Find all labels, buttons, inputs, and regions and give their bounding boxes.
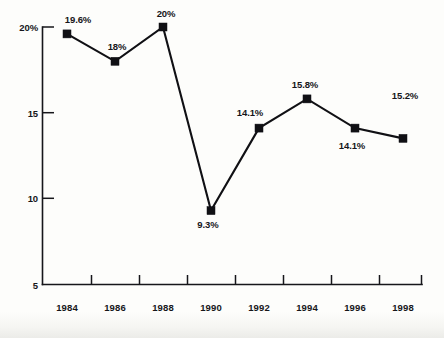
data-label-1990: 9.3% xyxy=(197,219,218,230)
y-tick-label-5: 5 xyxy=(0,279,38,290)
x-tick-label-1990: 1990 xyxy=(200,302,222,313)
y-tick-label-20: 20% xyxy=(0,22,38,33)
y-tick-label-15: 15 xyxy=(0,107,38,118)
data-label-1984: 19.6% xyxy=(65,14,91,25)
data-label-1988: 20% xyxy=(157,8,176,19)
data-label-1994: 15.8% xyxy=(292,79,318,90)
data-point-marker xyxy=(351,124,359,132)
x-tick-label-1986: 1986 xyxy=(104,302,126,313)
data-point-marker xyxy=(255,124,263,132)
data-label-1992: 14.1% xyxy=(237,107,263,118)
x-tick-label-1988: 1988 xyxy=(152,302,174,313)
x-tick-label-1984: 1984 xyxy=(56,302,78,313)
data-series-line xyxy=(67,27,403,211)
data-point-marker xyxy=(207,207,215,215)
y-tick-label-10: 10 xyxy=(0,193,38,204)
chart-canvas xyxy=(0,0,444,338)
x-tick-label-1996: 1996 xyxy=(344,302,366,313)
x-tick-label-1998: 1998 xyxy=(392,302,414,313)
x-tick-label-1992: 1992 xyxy=(248,302,270,313)
y-axis-ticks xyxy=(43,27,55,198)
data-point-marker xyxy=(159,23,167,31)
x-tick-label-1994: 1994 xyxy=(296,302,318,313)
line-chart: 20% 15 10 5 1984 1986 1988 1990 1992 199… xyxy=(0,0,444,338)
data-label-1986: 18% xyxy=(108,41,127,52)
data-point-marker xyxy=(303,95,311,103)
data-point-marker xyxy=(399,134,407,142)
data-label-1998: 15.2% xyxy=(392,90,418,101)
data-point-marker xyxy=(111,57,119,65)
data-point-marker xyxy=(63,30,71,38)
data-label-1996: 14.1% xyxy=(339,140,365,151)
x-axis-ticks xyxy=(92,275,422,285)
